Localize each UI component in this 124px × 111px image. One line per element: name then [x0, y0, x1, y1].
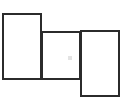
- middle-rectangle[interactable]: [41, 31, 81, 80]
- diagram-canvas: [0, 0, 124, 111]
- left-rectangle[interactable]: [2, 13, 42, 80]
- right-rectangle[interactable]: [80, 30, 120, 97]
- faint-gray-mark: [68, 56, 72, 60]
